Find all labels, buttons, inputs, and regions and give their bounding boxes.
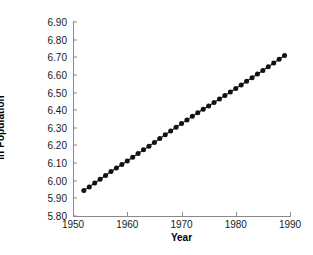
data-point — [217, 97, 222, 102]
data-point — [114, 166, 119, 171]
data-point — [163, 132, 168, 137]
population-chart: ln Population Year 5.805.906.006.106.206… — [0, 0, 313, 255]
data-point — [250, 75, 255, 80]
data-point — [108, 169, 113, 174]
data-point — [174, 125, 179, 130]
data-series — [0, 0, 313, 255]
data-point — [136, 151, 141, 156]
data-point — [244, 79, 249, 84]
data-point — [103, 173, 108, 178]
data-point — [212, 100, 217, 105]
data-point — [201, 107, 206, 112]
data-point — [179, 121, 184, 126]
data-point — [222, 93, 227, 98]
data-point — [130, 155, 135, 160]
data-point — [168, 128, 173, 133]
data-point — [119, 162, 124, 167]
data-point — [98, 177, 103, 182]
data-point — [190, 114, 195, 119]
data-point — [195, 110, 200, 115]
data-point — [206, 103, 211, 108]
data-point — [233, 86, 238, 91]
data-point — [260, 68, 265, 73]
data-point — [266, 64, 271, 69]
data-point — [152, 140, 157, 145]
data-point — [239, 82, 244, 87]
data-point — [125, 158, 130, 163]
data-point — [87, 184, 92, 189]
data-point — [255, 72, 260, 77]
data-point — [157, 136, 162, 141]
data-point — [184, 117, 189, 122]
series-markers — [81, 53, 287, 193]
data-point — [228, 90, 233, 95]
series-line — [84, 56, 285, 191]
data-point — [141, 147, 146, 152]
data-point — [277, 57, 282, 62]
data-point — [81, 188, 86, 193]
data-point — [282, 53, 287, 58]
data-point — [271, 61, 276, 66]
data-point — [146, 144, 151, 149]
data-point — [92, 181, 97, 186]
